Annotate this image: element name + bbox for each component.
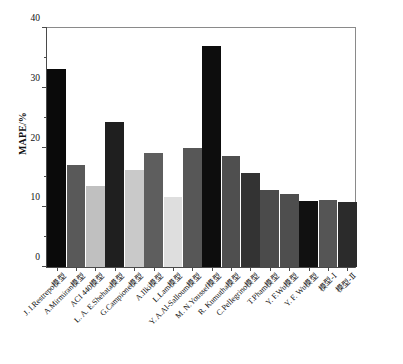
x-axis-labels: J. I.Restrepo模型A.Mirmiran模型ACI 440模型L. A… <box>46 272 356 362</box>
y-tick-label: 10 <box>31 192 41 202</box>
x-tick <box>212 267 213 271</box>
x-tick <box>57 267 58 271</box>
x-tick <box>328 267 329 271</box>
y-axis-title: MAPE/% <box>17 94 28 174</box>
x-tick <box>250 267 251 271</box>
bar <box>241 173 260 267</box>
bar <box>222 156 241 267</box>
x-tick <box>115 267 116 271</box>
x-tick <box>76 267 77 271</box>
x-tick <box>231 267 232 271</box>
bar-chart: MAPE/% 010203040 J. I.Restrepo模型A.Mirmir… <box>0 0 403 364</box>
bar <box>260 190 279 267</box>
y-tick-label: 20 <box>31 133 41 143</box>
x-tick <box>95 267 96 271</box>
x-tick <box>134 267 135 271</box>
x-tick <box>309 267 310 271</box>
bar <box>67 165 86 267</box>
x-tick <box>270 267 271 271</box>
bar <box>86 186 105 267</box>
bar <box>144 153 163 267</box>
x-tick <box>173 267 174 271</box>
bar <box>299 201 318 267</box>
bar <box>338 202 357 267</box>
bar <box>164 197 183 267</box>
bars-group <box>47 28 355 267</box>
y-tick-label: 40 <box>31 13 41 23</box>
bar <box>280 194 299 268</box>
plot-area: 010203040 <box>46 27 356 268</box>
y-tick-label: 30 <box>31 73 41 83</box>
x-tick <box>289 267 290 271</box>
x-tick <box>347 267 348 271</box>
x-axis-label: 模型-Ⅱ <box>335 272 358 295</box>
x-tick <box>192 267 193 271</box>
bar <box>47 69 66 267</box>
bar <box>125 170 144 267</box>
y-tick-label: 0 <box>35 252 40 262</box>
x-tick <box>154 267 155 271</box>
bar <box>183 148 202 267</box>
bar <box>319 200 338 267</box>
bar <box>202 46 221 267</box>
bar <box>105 122 124 267</box>
